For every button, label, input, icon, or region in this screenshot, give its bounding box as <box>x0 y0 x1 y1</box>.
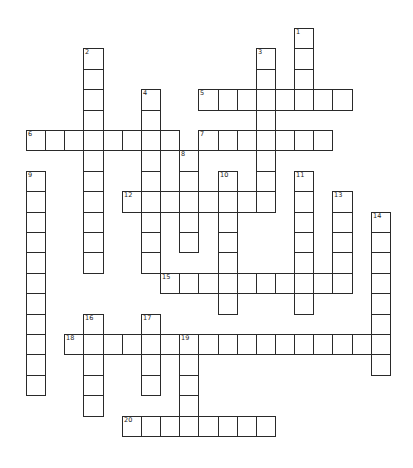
crossword-cell[interactable] <box>26 375 46 396</box>
crossword-cell[interactable] <box>313 334 333 355</box>
crossword-cell[interactable] <box>256 130 276 151</box>
crossword-cell[interactable] <box>256 416 276 437</box>
crossword-cell[interactable] <box>218 191 238 213</box>
crossword-cell[interactable] <box>294 232 314 253</box>
crossword-cell[interactable] <box>371 314 391 335</box>
crossword-cell[interactable] <box>332 334 353 355</box>
crossword-cell[interactable] <box>141 375 161 396</box>
crossword-cell[interactable] <box>83 89 104 111</box>
crossword-cell[interactable] <box>141 416 161 437</box>
crossword-cell[interactable] <box>218 273 238 294</box>
crossword-cell[interactable] <box>122 334 142 355</box>
crossword-cell[interactable] <box>313 130 333 151</box>
crossword-cell[interactable]: 3 <box>256 48 276 70</box>
crossword-cell[interactable] <box>103 334 123 355</box>
crossword-cell[interactable] <box>141 150 161 172</box>
crossword-cell[interactable] <box>218 212 238 233</box>
crossword-cell[interactable] <box>371 232 391 253</box>
crossword-cell[interactable] <box>141 232 161 253</box>
crossword-cell[interactable] <box>237 334 257 355</box>
crossword-cell[interactable] <box>83 212 104 233</box>
crossword-cell[interactable] <box>237 191 257 213</box>
crossword-cell[interactable]: 18 <box>64 334 84 355</box>
crossword-cell[interactable] <box>218 334 238 355</box>
crossword-cell[interactable] <box>218 252 238 274</box>
crossword-cell[interactable] <box>83 171 104 192</box>
crossword-cell[interactable]: 1 <box>294 28 314 49</box>
crossword-cell[interactable] <box>179 232 199 253</box>
crossword-cell[interactable] <box>198 416 219 437</box>
crossword-cell[interactable] <box>371 334 391 355</box>
crossword-cell[interactable]: 13 <box>332 191 353 213</box>
crossword-cell[interactable] <box>294 212 314 233</box>
crossword-cell[interactable] <box>83 375 104 396</box>
crossword-cell[interactable] <box>256 150 276 172</box>
crossword-cell[interactable] <box>26 252 46 274</box>
crossword-cell[interactable] <box>141 354 161 376</box>
crossword-cell[interactable] <box>179 212 199 233</box>
crossword-cell[interactable] <box>218 232 238 253</box>
crossword-cell[interactable] <box>83 252 104 274</box>
crossword-cell[interactable] <box>26 334 46 355</box>
crossword-cell[interactable] <box>64 130 84 151</box>
crossword-cell[interactable]: 17 <box>141 314 161 335</box>
crossword-cell[interactable] <box>237 273 257 294</box>
crossword-cell[interactable] <box>237 130 257 151</box>
crossword-cell[interactable] <box>141 334 161 355</box>
crossword-cell[interactable] <box>26 191 46 213</box>
crossword-cell[interactable] <box>237 416 257 437</box>
crossword-cell[interactable] <box>26 293 46 315</box>
crossword-cell[interactable]: 2 <box>83 48 104 70</box>
crossword-cell[interactable] <box>179 191 199 213</box>
crossword-cell[interactable]: 6 <box>26 130 46 151</box>
crossword-cell[interactable] <box>26 232 46 253</box>
crossword-cell[interactable] <box>218 130 238 151</box>
crossword-cell[interactable] <box>141 212 161 233</box>
crossword-cell[interactable] <box>122 130 142 151</box>
crossword-cell[interactable] <box>179 171 199 192</box>
crossword-cell[interactable] <box>256 334 276 355</box>
crossword-cell[interactable]: 10 <box>218 171 238 192</box>
crossword-cell[interactable] <box>332 273 353 294</box>
crossword-cell[interactable] <box>371 252 391 274</box>
crossword-cell[interactable] <box>26 354 46 376</box>
crossword-cell[interactable] <box>83 69 104 90</box>
crossword-cell[interactable] <box>332 89 353 111</box>
crossword-cell[interactable] <box>218 89 238 111</box>
crossword-cell[interactable] <box>160 130 180 151</box>
crossword-cell[interactable] <box>256 89 276 111</box>
crossword-cell[interactable] <box>275 334 295 355</box>
crossword-cell[interactable] <box>256 110 276 131</box>
crossword-cell[interactable]: 5 <box>198 89 219 111</box>
crossword-cell[interactable] <box>179 395 199 417</box>
crossword-cell[interactable]: 8 <box>179 150 199 172</box>
crossword-cell[interactable] <box>141 110 161 131</box>
crossword-cell[interactable] <box>256 273 276 294</box>
crossword-cell[interactable] <box>332 212 353 233</box>
crossword-cell[interactable] <box>294 273 314 294</box>
crossword-cell[interactable] <box>332 252 353 274</box>
crossword-cell[interactable] <box>45 130 65 151</box>
crossword-cell[interactable] <box>141 191 161 213</box>
crossword-cell[interactable]: 15 <box>160 273 180 294</box>
crossword-cell[interactable] <box>83 150 104 172</box>
crossword-cell[interactable] <box>294 191 314 213</box>
crossword-cell[interactable] <box>103 130 123 151</box>
crossword-cell[interactable] <box>237 89 257 111</box>
crossword-cell[interactable] <box>83 354 104 376</box>
crossword-cell[interactable] <box>294 69 314 90</box>
crossword-cell[interactable] <box>313 89 333 111</box>
crossword-cell[interactable] <box>160 416 180 437</box>
crossword-cell[interactable]: 4 <box>141 89 161 111</box>
crossword-cell[interactable] <box>294 334 314 355</box>
crossword-cell[interactable]: 19 <box>179 334 199 355</box>
crossword-cell[interactable] <box>179 375 199 396</box>
crossword-cell[interactable] <box>371 354 391 376</box>
crossword-cell[interactable]: 14 <box>371 212 391 233</box>
crossword-cell[interactable]: 9 <box>26 171 46 192</box>
crossword-cell[interactable] <box>371 293 391 315</box>
crossword-cell[interactable]: 11 <box>294 171 314 192</box>
crossword-cell[interactable] <box>26 314 46 335</box>
crossword-cell[interactable] <box>198 334 219 355</box>
crossword-cell[interactable] <box>256 171 276 192</box>
